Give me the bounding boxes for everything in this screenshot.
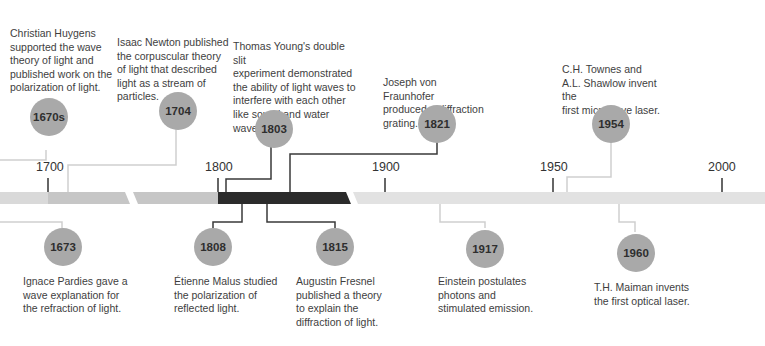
axis-label-1950: 1950 (540, 160, 568, 174)
year-badge-1803: 1803 (255, 110, 293, 148)
event-description-1808: Étienne Malus studied the polarization o… (174, 275, 279, 316)
bar-segment-1700-left (48, 192, 130, 204)
connector-1670s (0, 150, 46, 160)
bar-segment-pre-1700 (0, 192, 48, 204)
event-description-1803: Thomas Young's double slit experiment de… (233, 40, 358, 135)
bar-segment-1900-2000 (353, 192, 765, 204)
connector-1808 (213, 204, 242, 228)
year-badge-1954: 1954 (592, 105, 630, 143)
year-badge-1917: 1917 (466, 230, 504, 268)
event-description-1917: Einstein postulates photons and stimulat… (438, 275, 538, 316)
axis-label-2000: 2000 (708, 160, 736, 174)
connector-1960 (619, 204, 635, 232)
connector-1954 (567, 141, 611, 192)
connector-1704 (68, 120, 176, 192)
year-badge-1673: 1673 (44, 228, 82, 266)
year-badge-1704: 1704 (159, 92, 197, 130)
event-description-1815: Augustin Fresnel published a theory to e… (296, 275, 396, 329)
event-description-1673: Ignace Pardies gave a wave explanation f… (23, 275, 133, 316)
year-badge-1821: 1821 (418, 105, 456, 143)
axis-label-1700: 1700 (36, 160, 64, 174)
connector-1815 (267, 204, 335, 228)
axis-label-1800: 1800 (205, 160, 233, 174)
year-badge-1960: 1960 (617, 234, 655, 272)
axis-label-1900: 1900 (372, 160, 400, 174)
connector-1673 (0, 222, 62, 228)
connector-1821 (290, 141, 437, 192)
year-badge-1815: 1815 (316, 228, 354, 266)
bar-segment-1700-right (133, 192, 218, 204)
connector-1917 (440, 204, 485, 228)
bar-segment-1800-1900 (218, 192, 351, 204)
event-description-1670s: Christian Huygens supported the wave the… (10, 27, 122, 95)
year-badge-1670s: 1670s (30, 98, 68, 136)
year-badge-1808: 1808 (194, 228, 232, 266)
event-description-1960: T.H. Maiman invents the first optical la… (594, 281, 704, 308)
